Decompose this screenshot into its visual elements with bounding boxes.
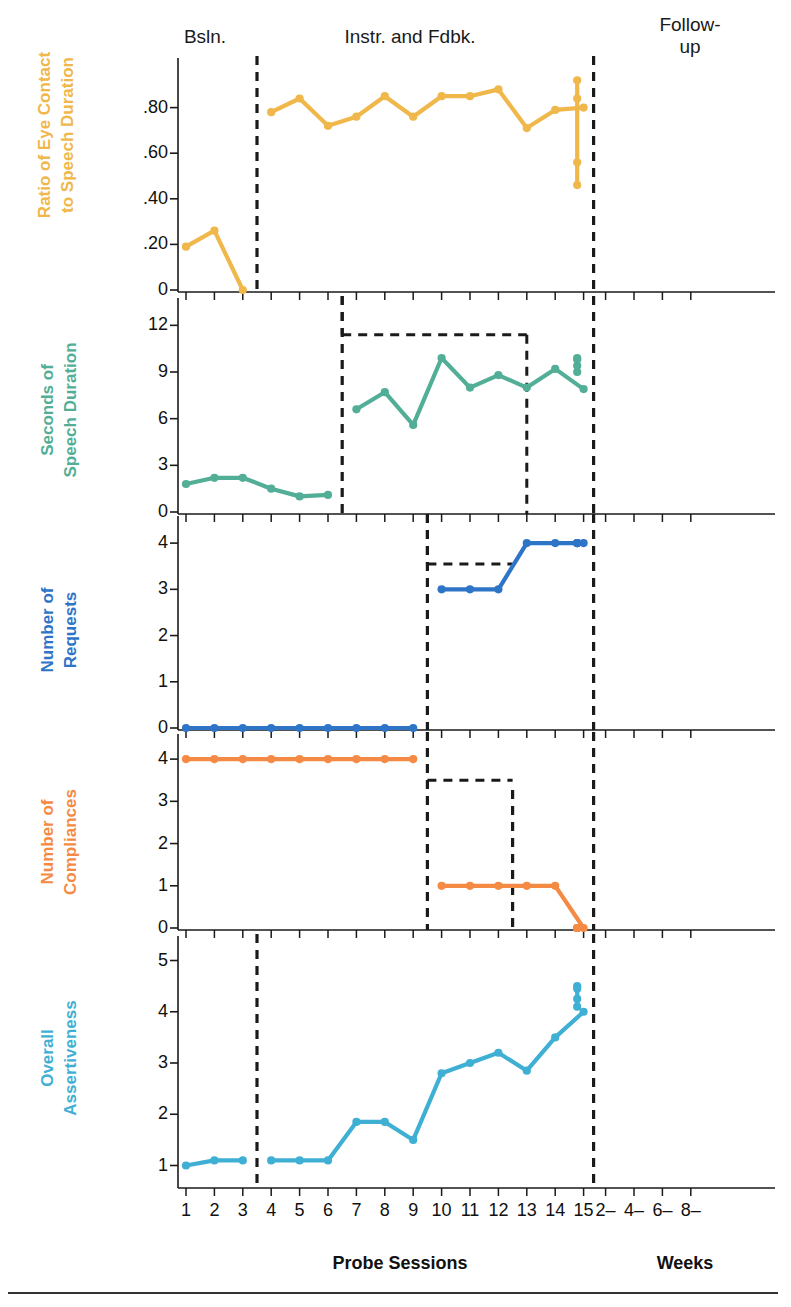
ytick-label-p4-2: 2 (110, 833, 168, 854)
panel-3 (170, 510, 775, 738)
datapoint-p1-s1-4 (381, 92, 389, 100)
datapoint-p5-s0-2 (239, 1156, 247, 1164)
footer-rule (8, 1292, 778, 1294)
datapoint-p2-s1-0 (352, 405, 360, 413)
xtick-session-8: 8 (369, 1200, 401, 1221)
datapoint-p5-s1-0 (267, 1156, 275, 1164)
ytick-label-p3-1: 1 (110, 671, 168, 692)
xtick-session-10: 10 (426, 1200, 458, 1221)
datapoint-p1-s1-3 (352, 113, 360, 121)
xtick-session-14: 14 (539, 1200, 571, 1221)
datapoint-p1-s0-0 (182, 243, 190, 251)
datapoint-p2-s1-4 (466, 383, 474, 391)
ytick-label-p5-1: 2 (110, 1103, 168, 1124)
ytick-label-p3-0: 0 (110, 717, 168, 738)
datapoint-p1-s1-9 (523, 124, 531, 132)
datapoint-p3-s1-4 (551, 539, 559, 547)
datapoint-p2-s0-5 (324, 491, 332, 499)
datapoint-p5-s0-1 (210, 1156, 218, 1164)
datapoint-p5-s2-1 (573, 995, 581, 1003)
datapoint-p2-s2-3 (573, 354, 581, 362)
datapoint-p4-s1-1 (466, 882, 474, 890)
datapoint-p1-s0-2 (239, 286, 247, 294)
ytick-label-p3-3: 3 (110, 578, 168, 599)
datapoint-p2-s1-3 (438, 354, 446, 362)
xtick-session-12: 12 (482, 1200, 514, 1221)
datapoint-p1-s2-3 (573, 181, 581, 189)
datapoint-p5-s1-8 (494, 1049, 502, 1057)
xtick-session-4: 4 (255, 1200, 287, 1221)
panel-2 (170, 292, 775, 522)
ytick-label-p2-2: 6 (110, 408, 168, 429)
xtick-session-5: 5 (284, 1200, 316, 1221)
ytick-label-p3-4: 4 (110, 532, 168, 553)
datapoint-p2-s0-4 (296, 492, 304, 500)
datapoint-p1-s0-1 (210, 227, 218, 235)
datapoint-p4-s0-8 (409, 755, 417, 763)
xaxis-title-sessions: Probe Sessions (270, 1253, 530, 1274)
datapoint-p4-s1-2 (494, 882, 502, 890)
series-group-p3 (182, 539, 588, 732)
datapoint-p4-s1-3 (523, 882, 531, 890)
datapoint-p4-s2-3 (573, 924, 581, 932)
line-p2-baseline (186, 478, 328, 497)
series-group-p4 (182, 755, 588, 932)
datapoint-p5-s2-3 (573, 1003, 581, 1011)
datapoint-p2-s1-8 (580, 385, 588, 393)
datapoint-p1-s1-8 (494, 85, 502, 93)
datapoint-p4-s0-4 (296, 755, 304, 763)
xtick-session-9: 9 (397, 1200, 429, 1221)
datapoint-p5-s1-3 (352, 1118, 360, 1126)
ytick-label-p5-4: 5 (110, 950, 168, 971)
ytick-label-p2-0: 0 (110, 501, 168, 522)
ytick-label-p2-3: 9 (110, 361, 168, 382)
series-group-p1 (182, 76, 588, 294)
datapoint-p1-s1-6 (438, 92, 446, 100)
xtick-session-3: 3 (227, 1200, 259, 1221)
datapoint-p2-s0-2 (239, 474, 247, 482)
ytick-label-p4-3: 3 (110, 790, 168, 811)
line-p1-instruction-and-feedback (271, 89, 583, 128)
line-p3-instruction-and-feedback (442, 543, 584, 589)
datapoint-p5-s1-1 (296, 1156, 304, 1164)
datapoint-p5-s1-9 (523, 1067, 531, 1075)
datapoint-p3-s1-0 (438, 585, 446, 593)
xtick-session-7: 7 (340, 1200, 372, 1221)
datapoint-p1-s2-0 (573, 158, 581, 166)
ytick-label-p1-2: .40 (110, 188, 168, 209)
datapoint-p3-s0-3 (267, 724, 275, 732)
xtick-session-13: 13 (511, 1200, 543, 1221)
datapoint-p4-s0-5 (324, 755, 332, 763)
datapoint-p2-s1-6 (523, 383, 531, 391)
datapoint-p1-s1-2 (324, 122, 332, 130)
datapoint-p1-s1-7 (466, 92, 474, 100)
datapoint-p1-s1-0 (267, 108, 275, 116)
datapoint-p1-s1-11 (580, 104, 588, 112)
datapoint-p3-s0-2 (239, 724, 247, 732)
datapoint-p2-s2-2 (573, 368, 581, 376)
datapoint-p3-s0-8 (409, 724, 417, 732)
series-group-p2 (182, 354, 588, 501)
xtick-session-1: 1 (170, 1200, 202, 1221)
datapoint-p4-s0-3 (267, 755, 275, 763)
datapoint-p3-s0-1 (210, 724, 218, 732)
line-p1-baseline (186, 231, 243, 290)
datapoint-p1-s2-2 (573, 94, 581, 102)
datapoint-p4-s0-6 (352, 755, 360, 763)
ytick-label-p5-2: 3 (110, 1052, 168, 1073)
datapoint-p5-s1-7 (466, 1059, 474, 1067)
datapoint-p1-s1-10 (551, 106, 559, 114)
datapoint-p5-s1-11 (580, 1008, 588, 1016)
criterion-line-p2 (342, 296, 527, 514)
datapoint-p3-s0-4 (296, 724, 304, 732)
ytick-label-p1-3: .60 (110, 142, 168, 163)
datapoint-p4-s1-0 (438, 882, 446, 890)
ytick-label-p2-1: 3 (110, 454, 168, 475)
datapoint-p5-s0-0 (182, 1161, 190, 1169)
datapoint-p5-s1-4 (381, 1118, 389, 1126)
datapoint-p2-s1-5 (494, 371, 502, 379)
datapoint-p3-s1-2 (494, 585, 502, 593)
ytick-label-p1-1: .20 (110, 233, 168, 254)
xtick-session-6: 6 (312, 1200, 344, 1221)
datapoint-p5-s1-2 (324, 1156, 332, 1164)
